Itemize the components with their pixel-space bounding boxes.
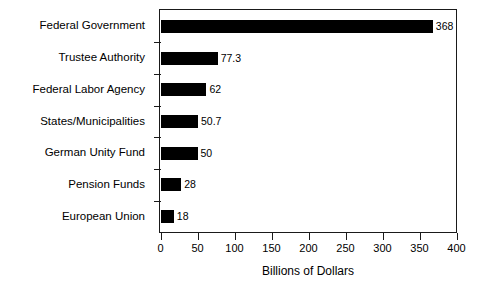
bar-value-label: 18 (177, 210, 189, 223)
x-axis-tick (383, 233, 384, 240)
x-axis-tick-label: 200 (299, 242, 317, 255)
y-axis-tick (154, 106, 161, 107)
y-axis-tick (154, 169, 161, 170)
bar (161, 178, 182, 191)
x-axis-tick-label: 350 (410, 242, 428, 255)
y-axis-tick (154, 201, 161, 202)
category-label: German Unity Fund (0, 146, 145, 158)
x-axis-tick (235, 233, 236, 240)
y-axis-tick (154, 137, 161, 138)
x-axis-tick-label: 250 (336, 242, 354, 255)
x-axis-tick (161, 233, 162, 240)
x-axis-tick-label: 100 (225, 242, 243, 255)
x-axis-tick-label: 50 (191, 242, 203, 255)
bar-value-label: 368 (436, 20, 454, 33)
bar (161, 115, 199, 128)
category-label: Federal Government (0, 19, 145, 31)
bar-chart: Federal Government Trustee Authority Fed… (0, 0, 487, 291)
bar-value-label: 28 (184, 178, 196, 191)
x-axis-tick-label: 300 (373, 242, 391, 255)
y-axis-tick (154, 42, 161, 43)
bar (161, 20, 433, 33)
x-axis-ticks: 0 50 100 150 200 250 300 350 400 (161, 233, 457, 257)
bar-value-label: 77.3 (221, 52, 241, 65)
bar (161, 52, 218, 65)
category-label: Trustee Authority (0, 51, 145, 63)
category-axis-labels: Federal Government Trustee Authority Fed… (0, 9, 152, 233)
x-axis-tick (346, 233, 347, 240)
x-axis-tick-label: 150 (262, 242, 280, 255)
category-label: Pension Funds (0, 178, 145, 190)
x-axis-tick (457, 233, 458, 240)
bar (161, 83, 207, 96)
x-axis-tick-label: 400 (447, 242, 465, 255)
bar-value-label: 50 (201, 147, 213, 160)
x-axis-tick (309, 233, 310, 240)
category-label: Federal Labor Agency (0, 83, 145, 95)
y-axis-tick (154, 74, 161, 75)
bars-layer: 368 77.3 62 50.7 50 28 18 (161, 11, 457, 233)
bar-value-label: 50.7 (201, 115, 221, 128)
bar-value-label: 62 (209, 83, 221, 96)
category-label: European Union (0, 210, 145, 222)
bar (161, 147, 198, 160)
x-axis-tick-label: 0 (157, 242, 163, 255)
x-axis-tick (420, 233, 421, 240)
category-label: States/Municipalities (0, 115, 145, 127)
x-axis-tick (272, 233, 273, 240)
x-axis-tick (198, 233, 199, 240)
x-axis-title: Billions of Dollars (159, 264, 457, 278)
bar (161, 210, 174, 223)
